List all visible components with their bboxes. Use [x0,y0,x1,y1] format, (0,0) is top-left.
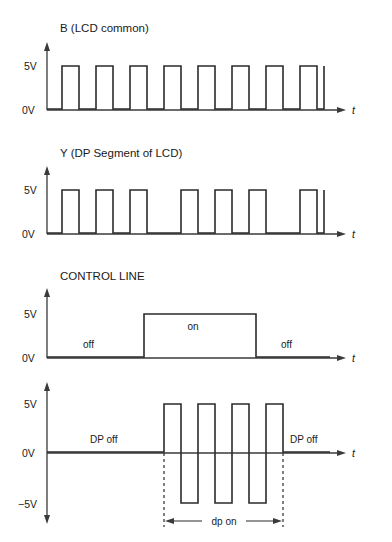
y-tick-label-zero-panel4: 0V [22,447,35,459]
panel-title-y-dp-segment: Y (DP Segment of LCD) [60,147,182,159]
y-tick-label-low-panel4: −5V [18,498,37,510]
annotation-control-off-right: off [281,339,292,350]
panel-title-control-line: CONTROL LINE [60,270,145,282]
y-tick-label-high-panel3: 5V [24,308,37,320]
annotation-dp-off-right: DP off [290,434,318,445]
y-tick-label-high-panel1: 5V [24,60,37,72]
y-tick-label-low-panel1: 0V [22,104,35,116]
annotation-control-off-left: off [83,339,94,350]
panel-title-b-lcd-common: B (LCD common) [60,22,149,34]
y-tick-label-low-panel3: 0V [22,352,35,364]
timing-diagram-figure: B (LCD common) 5V 0V t Y (DP Segment of … [0,0,392,542]
timing-diagram-canvas: B (LCD common) 5V 0V t Y (DP Segment of … [0,0,392,542]
y-tick-label-high-panel4: 5V [24,398,37,410]
y-tick-label-high-panel2: 5V [24,184,37,196]
figure-background [0,0,392,542]
annotation-control-on: on [187,321,198,332]
annotation-dp-off-left: DP off [90,434,118,445]
y-tick-label-low-panel2: 0V [22,228,35,240]
annotation-dp-on: dp on [211,516,236,527]
